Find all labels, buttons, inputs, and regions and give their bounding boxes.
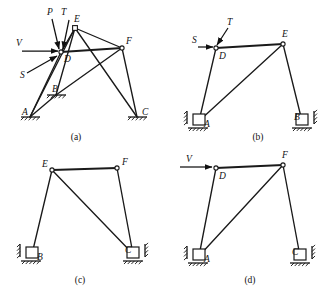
joint-marker-E-b [281, 42, 285, 46]
joint-marker-F-d [281, 163, 285, 167]
joint-marker-F-c [115, 166, 119, 170]
joint-label-F-d: F [281, 150, 288, 160]
joint-marker-E-a [73, 26, 78, 31]
panel-a: PTVSABCDEF(a) [16, 7, 149, 143]
members-d [199, 165, 300, 256]
joint-label-C-d: C [292, 247, 299, 257]
support-A [21, 117, 40, 120]
joint-label-B-a: B [52, 84, 58, 94]
joint-label-E-c: E [41, 159, 48, 169]
member-AF [199, 165, 283, 256]
joint-label-B-b: B [294, 112, 300, 122]
joint-label-D-b: D [218, 51, 226, 61]
members-b [199, 44, 302, 121]
joint-label-C-a: C [142, 107, 149, 117]
force-label-V-d: V [186, 154, 193, 164]
force-label-T-b: T [227, 17, 233, 27]
joint-label-E-b: E [281, 29, 288, 39]
joint-marker-F-a [120, 46, 124, 50]
forces-d: V [180, 154, 212, 167]
member-FC [117, 168, 133, 254]
panel-caption-c: (c) [75, 275, 86, 286]
joint-label-F-c: F [121, 157, 128, 167]
panel-d: VACDF(d) [180, 150, 315, 286]
member-DF [216, 165, 283, 168]
force-arrow-P-a [52, 19, 59, 49]
joint-label-C-c: C [125, 245, 132, 255]
force-arrow-T-b [217, 28, 228, 45]
joint-label-A-b: A [203, 119, 210, 129]
panel-c: BCEF(c) [17, 157, 148, 286]
joint-marker-D-d [214, 166, 218, 170]
force-label-V-a: V [16, 38, 23, 48]
force-label-P-a: P [46, 7, 53, 17]
truss-figure: PTVSABCDEF(a)TSABDE(b)BCEF(c)VACDF(d) [0, 0, 331, 293]
member-AD [199, 168, 216, 256]
support-C [128, 117, 147, 120]
joint-label-A-d: A [203, 254, 210, 264]
members-c [32, 168, 133, 254]
support-B [47, 95, 66, 98]
member-EF [52, 168, 117, 170]
panel-b: TSABDE(b) [184, 17, 317, 143]
member-BE [32, 170, 52, 254]
member-AE [199, 44, 283, 121]
joint-label-A-a: A [21, 107, 28, 117]
member-DE [216, 44, 283, 48]
forces-b: TS [192, 17, 233, 47]
force-label-T-a: T [61, 7, 67, 17]
member-AE [30, 28, 75, 117]
panel-caption-d: (d) [244, 275, 255, 286]
member-EB [283, 44, 302, 121]
joint-label-D-a: D [63, 54, 71, 64]
joint-marker-E-c [50, 168, 54, 172]
force-label-S-b: S [192, 35, 197, 45]
members-a [30, 28, 137, 117]
member-AB [30, 95, 56, 117]
joint-marker-D-a [59, 50, 63, 54]
member-AD [199, 48, 216, 121]
joint-label-D-d: D [218, 171, 226, 181]
force-label-S-a: S [20, 70, 25, 80]
joint-label-F-a: F [125, 36, 132, 46]
forces-a: PTVS [16, 7, 69, 80]
joint-label-E-a: E [73, 14, 80, 24]
panel-caption-a: (a) [71, 132, 82, 143]
structural-frame-diagram: PTVSABCDEF(a)TSABDE(b)BCEF(c)VACDF(d) [0, 0, 331, 293]
member-EC [52, 170, 133, 254]
panel-caption-b: (b) [252, 132, 263, 143]
member-FC [283, 165, 300, 256]
joint-marker-D-b [214, 46, 218, 50]
joint-label-B-c: B [37, 252, 43, 262]
